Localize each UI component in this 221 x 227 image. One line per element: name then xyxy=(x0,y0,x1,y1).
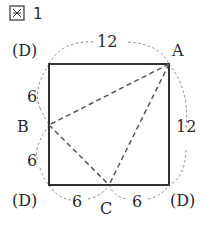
arc-left-b-in xyxy=(40,108,49,125)
arc-bottom-left-b xyxy=(88,185,109,199)
kanji-stroke-icon xyxy=(13,9,21,17)
fold-lines xyxy=(49,64,169,185)
measure-top: 12 xyxy=(97,32,117,51)
line-BC xyxy=(49,125,109,185)
arc-left-bottom xyxy=(40,168,49,185)
arc-bottom-right-b xyxy=(148,185,169,199)
measure-bottom-right: 6 xyxy=(132,192,142,211)
arc-top-right xyxy=(128,42,169,64)
line-AB xyxy=(49,64,169,125)
arc-bottom-right-a xyxy=(109,185,128,199)
measure-bottom-left: 6 xyxy=(72,192,82,211)
corner-D-bottom-left: (D) xyxy=(12,191,37,210)
arc-top-left xyxy=(49,42,95,64)
arc-left-mid xyxy=(36,125,49,160)
line-AC xyxy=(109,64,169,185)
corner-D-top-left: (D) xyxy=(12,41,37,60)
measure-right: 12 xyxy=(176,117,196,136)
corner-D-bottom-right: (D) xyxy=(170,191,195,210)
fold-arcs xyxy=(36,42,186,200)
arc-left-top xyxy=(37,64,49,108)
figure-title: 1 xyxy=(10,5,43,23)
point-C-label: C xyxy=(100,199,112,218)
square xyxy=(49,64,169,185)
measure-left-lower: 6 xyxy=(27,151,37,170)
figure-canvas: 1 A B C (D) (D) (D) 12 12 6 6 6 6 xyxy=(0,0,221,227)
point-B-label: B xyxy=(17,117,29,136)
arc-right-lower xyxy=(169,150,186,185)
figure-number: 1 xyxy=(33,5,43,23)
arc-bottom-left-a xyxy=(49,185,72,200)
measure-left-upper: 6 xyxy=(27,87,37,106)
point-A-label: A xyxy=(171,41,184,60)
